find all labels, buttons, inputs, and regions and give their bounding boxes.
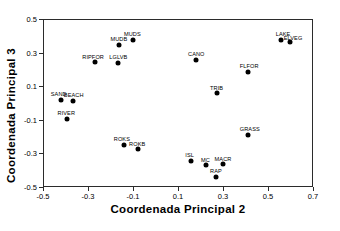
data-point-label: MC — [201, 157, 210, 163]
data-point-label: BEACH — [64, 92, 84, 98]
y-tick-mark — [39, 120, 43, 121]
data-point-label: GRASS — [240, 126, 260, 132]
data-point — [130, 37, 135, 42]
x-tick-label: 0.5 — [263, 192, 273, 201]
y-tick-label: -0.1 — [15, 115, 37, 124]
x-tick-mark — [178, 187, 179, 191]
x-tick-mark — [88, 187, 89, 191]
data-point-label: ELVEG — [284, 35, 303, 41]
data-point-label: RAP — [210, 168, 222, 174]
data-point-label: ISL — [185, 152, 194, 158]
x-axis-title: Coordenada Principal 2 — [43, 203, 313, 215]
data-point — [220, 162, 225, 167]
x-tick-label: 0.7 — [308, 192, 318, 201]
y-tick-label: -0.5 — [15, 183, 37, 192]
plot-area: MUDSMUDBLAKEELVEGRIPFORLGLVBCANOFLFORTRI… — [43, 19, 313, 187]
data-point — [64, 116, 69, 121]
data-point — [58, 97, 63, 102]
data-point-label: RIPFOR — [82, 54, 104, 60]
x-tick-label: -0.3 — [82, 192, 95, 201]
data-point — [204, 162, 209, 167]
y-tick-label: -0.3 — [15, 149, 37, 158]
data-point-label: LGLVB — [109, 54, 127, 60]
x-tick-label: -0.5 — [37, 192, 50, 201]
data-point — [213, 174, 218, 179]
x-tick-mark — [43, 187, 44, 191]
data-point — [92, 60, 97, 65]
x-tick-label: -0.1 — [127, 192, 140, 201]
y-tick-mark — [39, 19, 43, 20]
y-tick-mark — [39, 53, 43, 54]
data-point-label: ROKB — [129, 141, 145, 147]
data-point-label: ROKS — [114, 136, 130, 142]
data-point-label: TRIB — [210, 85, 223, 91]
data-point-label: MUDB — [110, 36, 127, 42]
x-tick-mark — [313, 187, 314, 191]
data-point — [121, 142, 126, 147]
data-point-label: CANO — [188, 51, 205, 57]
x-tick-mark — [133, 187, 134, 191]
y-tick-label: 0.3 — [15, 48, 37, 57]
data-point — [71, 98, 76, 103]
data-point — [117, 42, 122, 47]
data-point-label: RIVER — [58, 110, 76, 116]
y-tick-mark — [39, 187, 43, 188]
x-tick-mark — [268, 187, 269, 191]
data-point — [245, 69, 250, 74]
scatter-plot-figure: Coordenada Principal 3 MUDSMUDBLAKEELVEG… — [0, 0, 340, 231]
data-point — [188, 158, 193, 163]
x-tick-label: 0.3 — [218, 192, 228, 201]
x-tick-label: 0.1 — [173, 192, 183, 201]
y-tick-label: 0.5 — [15, 15, 37, 24]
data-point — [246, 132, 251, 137]
data-point-label: FLFOR — [240, 63, 259, 69]
data-point-label: MACR — [215, 156, 232, 162]
data-point — [116, 60, 121, 65]
y-tick-label: 0.1 — [15, 82, 37, 91]
data-point — [193, 57, 198, 62]
data-point — [215, 91, 220, 96]
x-tick-mark — [223, 187, 224, 191]
y-tick-mark — [39, 86, 43, 87]
y-tick-mark — [39, 153, 43, 154]
